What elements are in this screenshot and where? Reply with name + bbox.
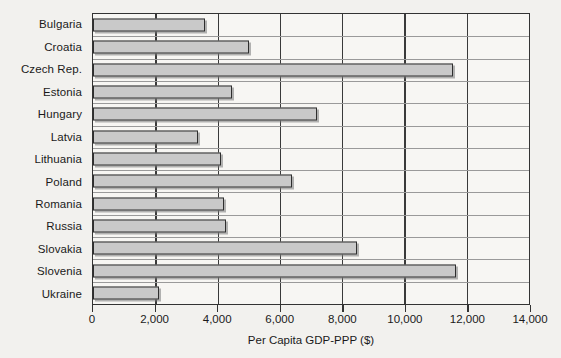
x-tick-label: 10,000 [387,313,422,325]
x-axis-ticks [92,305,530,312]
x-tick [405,305,406,312]
category-label: Croatia [0,35,88,57]
bar [93,264,456,277]
bar [93,19,205,32]
x-tick [530,305,531,312]
bar [93,175,292,188]
category-label: Romania [0,193,88,215]
bar [93,286,159,299]
bar-row [93,282,529,304]
bar [93,108,317,121]
x-tick [342,305,343,312]
x-tick [155,305,156,312]
bar-row [93,36,529,58]
x-tick [467,305,468,312]
category-label: Bulgaria [0,13,88,35]
bar-row [93,237,529,259]
category-label: Poland [0,170,88,192]
x-axis-title: Per Capita GDP-PPP ($) [92,334,530,346]
x-tick [92,305,93,312]
bar-row [93,103,529,125]
x-tick-label: 0 [89,313,95,325]
x-tick-label: 6,000 [265,313,294,325]
plot-area [92,13,530,305]
x-tick-label: 14,000 [512,313,547,325]
x-tick-label: 4,000 [203,313,232,325]
bar-row [93,170,529,192]
category-label: Czech Rep. [0,58,88,80]
bar-row [93,59,529,81]
bar-row [93,126,529,148]
bar [93,219,226,232]
bar-row [93,14,529,36]
bar [93,242,357,255]
bar-row [93,215,529,237]
category-label: Hungary [0,103,88,125]
bar-row [93,148,529,170]
x-tick-label: 12,000 [450,313,485,325]
x-tick [217,305,218,312]
bar [93,86,232,99]
category-label: Lithuania [0,148,88,170]
bar [93,41,249,54]
x-tick-label: 8,000 [328,313,357,325]
category-label: Latvia [0,125,88,147]
bar-chart: BulgariaCroatiaCzech Rep.EstoniaHungaryL… [0,0,561,358]
x-tick [280,305,281,312]
category-label: Russia [0,215,88,237]
category-label: Ukraine [0,283,88,305]
bar-row [93,259,529,281]
category-axis: BulgariaCroatiaCzech Rep.EstoniaHungaryL… [0,13,88,305]
bar [93,197,224,210]
category-label: Slovenia [0,260,88,282]
bar-row [93,193,529,215]
category-label: Estonia [0,80,88,102]
bar [93,130,198,143]
category-label: Slovakia [0,238,88,260]
bar [93,153,221,166]
x-axis-tick-labels: 02,0004,0006,0008,00010,00012,00014,000 [92,313,530,329]
x-tick-label: 2,000 [140,313,169,325]
bar-row [93,81,529,103]
bars-layer [93,14,529,304]
bar [93,63,453,76]
